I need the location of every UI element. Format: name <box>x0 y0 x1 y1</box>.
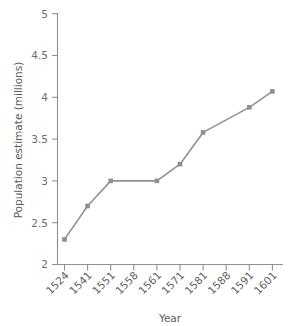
y-tick-labels: 2 2.5 3 3.5 4 4.5 5 <box>31 8 48 271</box>
data-point-marker <box>85 204 90 209</box>
y-axis-label: Population estimate (millions) <box>12 62 24 219</box>
x-tick-group <box>65 265 273 271</box>
x-tick-label: 1558 <box>113 269 140 296</box>
y-tick-group <box>52 14 58 265</box>
x-tick-label: 1591 <box>228 269 255 296</box>
x-tick-label: 1571 <box>159 269 186 296</box>
data-point-marker <box>62 237 67 242</box>
data-point-marker <box>201 130 206 135</box>
line-chart: Population estimate (millions) 2 2.5 3 3… <box>0 0 291 326</box>
x-tick-label: 1588 <box>205 269 232 296</box>
y-tick-label: 3 <box>41 175 48 187</box>
x-tick-label: 1601 <box>251 269 278 296</box>
x-tick-label: 1524 <box>44 269 72 297</box>
x-tick-label: 1561 <box>136 269 163 296</box>
y-tick-label: 5 <box>41 8 48 20</box>
chart-canvas: Population estimate (millions) 2 2.5 3 3… <box>0 0 291 326</box>
x-tick-label: 1541 <box>67 269 94 296</box>
y-tick-label: 2 <box>41 258 48 270</box>
y-tick-label: 4.5 <box>31 49 48 61</box>
series-markers <box>62 89 275 242</box>
axis-lines <box>58 13 284 265</box>
x-tick-labels: 1524 1541 1551 1558 1561 1571 1581 1588 … <box>44 269 279 297</box>
data-point-marker <box>178 162 183 167</box>
data-point-marker <box>108 179 113 184</box>
data-point-marker <box>270 89 275 94</box>
y-tick-label: 2.5 <box>31 217 48 229</box>
y-tick-label: 3.5 <box>31 133 48 145</box>
x-tick-label: 1551 <box>90 269 117 296</box>
x-axis-label: Year <box>158 312 182 324</box>
series-line-population <box>65 91 273 239</box>
data-point-marker <box>247 105 252 110</box>
x-tick-label: 1581 <box>182 269 209 296</box>
y-tick-label: 4 <box>41 91 48 103</box>
data-point-marker <box>155 179 160 184</box>
